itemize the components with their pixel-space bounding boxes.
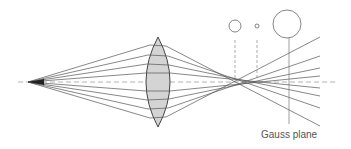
gauss-plane-label: Gauss plane bbox=[261, 129, 317, 140]
converging-lens bbox=[146, 37, 170, 127]
circle-of-least-confusion bbox=[255, 24, 259, 28]
refracted-rays bbox=[166, 37, 320, 126]
marginal-focus-circle bbox=[229, 20, 241, 32]
incident-rays bbox=[28, 45, 150, 118]
gauss-plane-circle bbox=[273, 10, 301, 38]
spherical-aberration-diagram bbox=[0, 0, 351, 149]
